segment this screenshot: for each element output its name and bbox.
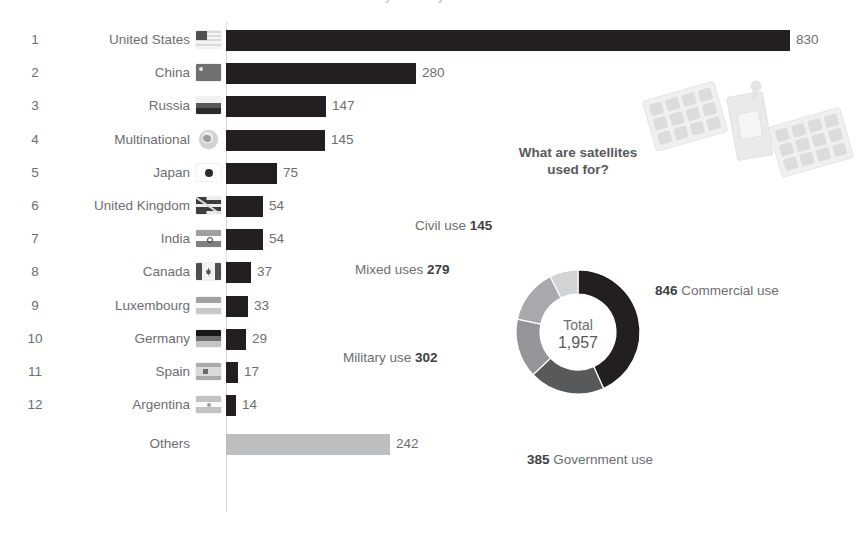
bar-row-country: China (40, 60, 190, 86)
bar-row-country: India (40, 226, 190, 252)
bar-row-value: 830 (796, 27, 819, 53)
bar-chart-row: 1United States830 (0, 27, 856, 53)
bar-row-bar (226, 130, 325, 151)
bar-row-bar (226, 362, 238, 383)
donut-label-military-name: Military use (343, 350, 411, 365)
bar-chart-row: Others242 (0, 431, 856, 457)
flag-ar-icon (196, 396, 221, 413)
donut-label-military: Military use 302 (343, 350, 438, 365)
donut-center-text: Total 1,957 (518, 316, 638, 352)
globe-multinational-icon (199, 130, 218, 149)
bar-row-bar (226, 163, 277, 184)
bar-row-bar (226, 63, 416, 84)
bar-row-value: 147 (332, 93, 355, 119)
donut-title: What are satellites used for? (478, 144, 678, 178)
bar-row-country: Japan (40, 160, 190, 186)
bar-row-bar (226, 30, 790, 51)
flag-jp-icon (196, 164, 221, 181)
donut-label-commercial: 846 Commercial use (655, 283, 779, 298)
bar-row-country: Canada (40, 259, 190, 285)
bar-row-value: 75 (283, 160, 298, 186)
flag-uk-icon (196, 197, 221, 214)
flag-us-icon (196, 31, 221, 48)
flag-in-icon (196, 230, 221, 247)
bar-row-bar (226, 395, 236, 416)
bar-row-value: 17 (244, 359, 259, 385)
bar-row-bar (226, 196, 263, 217)
donut-label-commercial-value: 846 (655, 283, 678, 298)
bar-row-country: Luxembourg (40, 293, 190, 319)
donut-label-civil: Civil use 145 (415, 218, 492, 233)
bar-row-country: Argentina (40, 392, 190, 418)
bar-row-country: Others (40, 431, 190, 457)
bar-row-bar (226, 296, 248, 317)
donut-label-civil-value: 145 (470, 218, 493, 233)
donut-label-government-name: Government use (553, 452, 653, 467)
bar-row-value: 37 (257, 259, 272, 285)
page-title-cutoff: Number of satellites in orbit by country (195, 0, 835, 4)
bar-row-bar (226, 229, 263, 250)
donut-label-civil-name: Civil use (415, 218, 466, 233)
donut-label-mixed: Mixed uses 279 (355, 262, 450, 277)
bar-row-bar (226, 434, 390, 455)
flag-lu-icon (196, 297, 221, 314)
bar-chart-row: 12Argentina14 (0, 392, 856, 418)
bar-row-value: 242 (396, 431, 419, 457)
bar-row-country: United Kingdom (40, 193, 190, 219)
flag-cn-icon (196, 64, 221, 81)
flag-es-icon (196, 363, 221, 380)
flag-ca-icon (196, 263, 221, 280)
bar-row-bar (226, 96, 326, 117)
flag-de-icon (196, 330, 221, 347)
bar-row-value: 145 (331, 127, 354, 153)
bar-row-country: Germany (40, 326, 190, 352)
donut-label-military-value: 302 (415, 350, 438, 365)
bar-row-bar (226, 262, 251, 283)
bar-row-bar (226, 329, 246, 350)
bar-row-value: 14 (242, 392, 257, 418)
donut-label-government-value: 385 (527, 452, 550, 467)
bar-row-value: 33 (254, 293, 269, 319)
page-title-text: Number of satellites in orbit by country (195, 0, 835, 3)
bar-chart-row: 10Germany29 (0, 326, 856, 352)
flag-ru-icon (196, 97, 221, 114)
donut-center-label: Total (518, 316, 638, 334)
bar-row-value: 280 (422, 60, 445, 86)
donut-label-commercial-name: Commercial use (681, 283, 779, 298)
donut-label-mixed-value: 279 (427, 262, 450, 277)
bar-row-country: Spain (40, 359, 190, 385)
donut-label-government: 385 Government use (527, 452, 653, 467)
donut-center-value: 1,957 (518, 334, 638, 352)
infographic-canvas: Number of satellites in orbit by country… (0, 0, 856, 542)
bar-row-country: United States (40, 27, 190, 53)
donut-title-line2: used for? (547, 162, 609, 177)
bar-row-country: Multinational (40, 127, 190, 153)
bar-row-country: Russia (40, 93, 190, 119)
bar-row-value: 54 (269, 226, 284, 252)
donut-label-mixed-name: Mixed uses (355, 262, 423, 277)
bar-chart-row: 6United Kingdom54 (0, 193, 856, 219)
bar-row-value: 29 (252, 326, 267, 352)
bar-row-value: 54 (269, 193, 284, 219)
donut-title-line1: What are satellites (519, 145, 638, 160)
